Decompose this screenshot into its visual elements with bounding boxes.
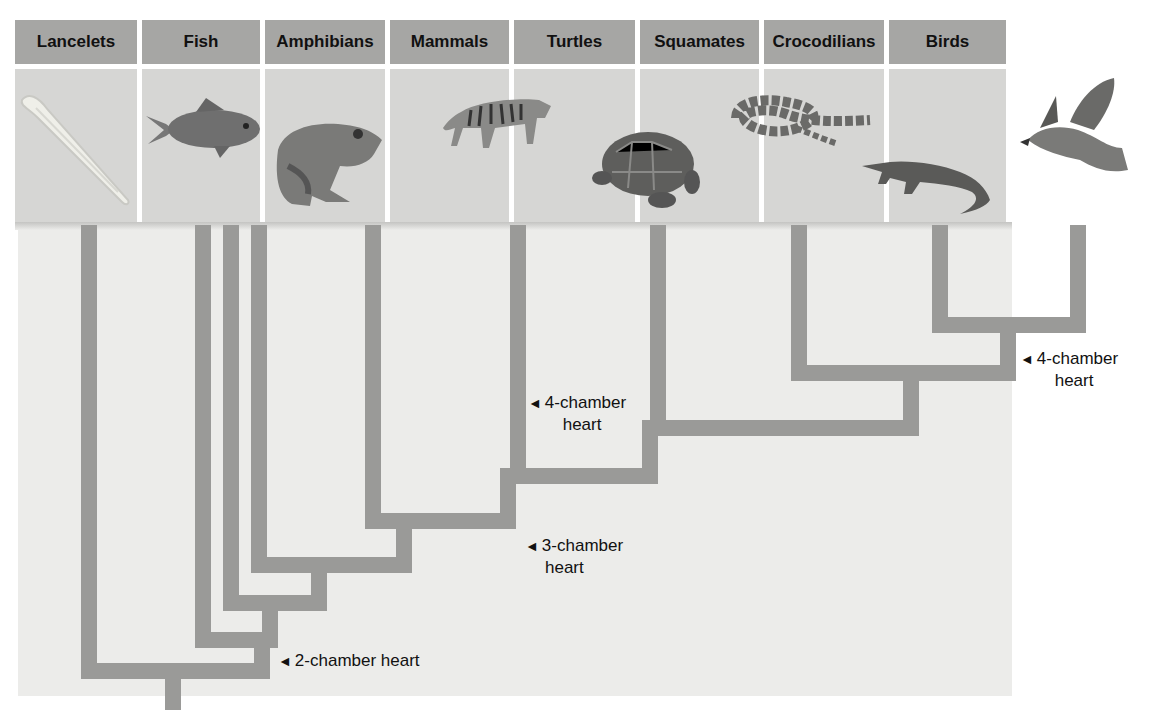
taxon-header-crocodilians: Crocodilians (764, 20, 884, 64)
label-4-chamber-heart-birds: ◄4-chamber heart (1020, 348, 1118, 392)
branch-amphibians (365, 225, 381, 529)
branch-lancelets (81, 225, 97, 679)
taxon-header-squamates: Squamates (640, 20, 759, 64)
tiger-icon (441, 88, 553, 154)
hawk-icon (1018, 72, 1130, 184)
label-text: 4-chamber (545, 393, 626, 412)
label-text-line2: heart (525, 557, 623, 579)
label-text-line2: heart (1020, 370, 1118, 392)
fish-icon (144, 96, 264, 158)
crossbar-reptiles (650, 420, 919, 436)
branch-mammals (510, 225, 526, 484)
branch-squamates (791, 225, 807, 381)
lancelet-icon (18, 88, 148, 210)
taxon-header-lancelets: Lancelets (15, 20, 137, 64)
label-3-chamber-heart: ◄3-chamber heart (525, 535, 623, 579)
branch-turtles (650, 225, 666, 436)
arrow-left-icon: ◄ (1020, 351, 1034, 367)
label-text: 4-chamber (1037, 349, 1118, 368)
snake-icon (726, 92, 876, 152)
arrow-left-icon: ◄ (525, 538, 539, 554)
root-stem (165, 663, 181, 710)
crossbar-amniotes (510, 468, 658, 484)
label-2-chamber-heart: ◄2-chamber heart (278, 650, 420, 672)
taxon-header-amphibians: Amphibians (265, 20, 385, 64)
label-text: 3-chamber (542, 536, 623, 555)
crossbar-node-4 (251, 557, 412, 573)
arrow-left-icon: ◄ (528, 395, 542, 411)
alligator-icon (860, 154, 1000, 216)
taxon-header-mammals: Mammals (390, 20, 509, 64)
branch-fish-2 (223, 225, 239, 611)
branch-fish-1 (195, 225, 211, 648)
label-text-line2: heart (528, 414, 626, 436)
taxon-header-birds: Birds (889, 20, 1006, 64)
branch-fish-3 (251, 225, 267, 573)
frog-icon (270, 110, 388, 210)
taxon-header-turtles: Turtles (514, 20, 635, 64)
taxon-header-fish: Fish (142, 20, 260, 64)
arrow-left-icon: ◄ (278, 653, 292, 669)
label-4-chamber-heart-mammals: ◄4-chamber heart (528, 392, 626, 436)
turtle-icon (592, 128, 702, 212)
crossbar-tetrapods (365, 513, 516, 529)
label-text: 2-chamber heart (295, 651, 420, 670)
